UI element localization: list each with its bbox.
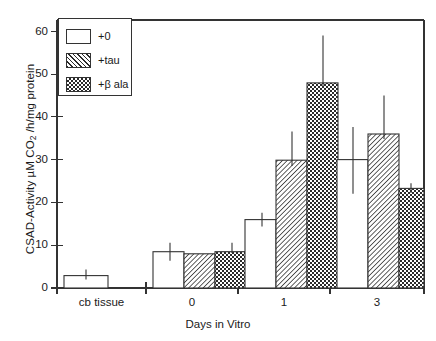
- bar-group-day-0: [153, 243, 246, 288]
- bar-day0-plusbeta-ala[interactable]: [215, 252, 246, 288]
- legend-item-plustau[interactable]: +tau: [66, 49, 131, 71]
- bar-group-day-3: [337, 96, 424, 289]
- bar-day3-plusbeta-ala[interactable]: [399, 188, 424, 288]
- legend-item-plus0[interactable]: +0: [66, 25, 131, 47]
- bar-group-cb-tissue: [64, 270, 108, 288]
- bar-group-day-1: [245, 36, 338, 288]
- legend-label-plusbeta-ala: +β ala: [98, 79, 129, 90]
- bar-day0-plustau[interactable]: [184, 254, 215, 288]
- legend: +0 +tau +β ala: [58, 18, 132, 96]
- legend-item-plusbeta-ala[interactable]: +β ala: [66, 73, 131, 95]
- legend-swatch-plustau: [66, 53, 91, 68]
- bar-day0-plus0[interactable]: [153, 252, 184, 288]
- bar-day1-plus0[interactable]: [245, 220, 276, 288]
- legend-label-plustau: +tau: [98, 55, 120, 66]
- chart-figure: CSAD-Activity µM CO2 /h/mg protein Days …: [0, 0, 436, 341]
- legend-swatch-plusbeta-ala: [66, 77, 91, 92]
- bar-day1-plusbeta-ala[interactable]: [307, 83, 338, 288]
- legend-swatch-plus0: [66, 29, 91, 44]
- bar-day3-plustau[interactable]: [368, 134, 399, 288]
- legend-label-plus0: +0: [98, 31, 111, 42]
- bar-day1-plustau[interactable]: [276, 160, 307, 288]
